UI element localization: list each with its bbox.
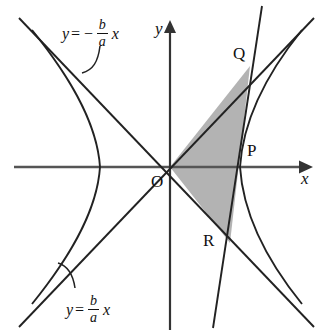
geometry-canvas: [0, 0, 326, 333]
hyperbola-figure: y = − b a x y = b a x y x O P Q R: [0, 0, 326, 333]
point-label-Q: Q: [233, 45, 245, 62]
equation-variable: x: [112, 26, 119, 42]
y-axis-label: y: [155, 20, 163, 37]
fraction-b-over-a: b a: [88, 294, 99, 325]
shaded-triangle-OQR: [170, 66, 250, 243]
fraction-numerator: b: [97, 18, 108, 33]
equation-equals: =: [73, 302, 86, 318]
point-label-P: P: [247, 142, 256, 159]
fraction-denominator: a: [88, 310, 99, 325]
fraction-denominator: a: [97, 34, 108, 49]
equation-equals: =: [69, 26, 82, 42]
fraction-b-over-a: b a: [97, 18, 108, 49]
leader-line-upper: [82, 46, 100, 73]
equation-lhs: y: [62, 26, 69, 42]
equation-variable: x: [103, 302, 110, 318]
y-axis-arrowhead: [164, 20, 176, 33]
asymptote-positive-equation-label: y = b a x: [66, 294, 110, 325]
x-axis-label: x: [301, 170, 309, 187]
asymptote-negative-equation-label: y = − b a x: [62, 18, 119, 49]
point-label-O: O: [151, 173, 163, 190]
fraction-numerator: b: [88, 294, 99, 309]
equation-lhs: y: [66, 302, 73, 318]
equation-sign: −: [82, 26, 95, 42]
point-label-R: R: [203, 232, 214, 249]
